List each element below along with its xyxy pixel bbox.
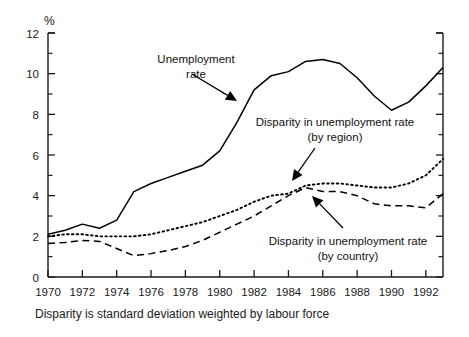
y-tick-label: 0 bbox=[33, 272, 39, 284]
x-tick-label: 1982 bbox=[241, 286, 267, 298]
x-tick-label: 1992 bbox=[413, 286, 439, 298]
chart-figure: 0246810121970197219741976197819801982198… bbox=[0, 0, 469, 337]
annotation-text-line: (by country) bbox=[318, 250, 379, 262]
x-tick-label: 1972 bbox=[70, 286, 96, 298]
x-tick-label: 1990 bbox=[379, 286, 405, 298]
x-tick-label: 1980 bbox=[207, 286, 233, 298]
y-tick-label: 4 bbox=[33, 190, 40, 202]
annotation-text-line: Disparity in unemployment rate bbox=[256, 116, 415, 128]
y-tick-label: 12 bbox=[26, 28, 39, 40]
y-tick-label: 10 bbox=[26, 68, 39, 80]
y-tick-label: 2 bbox=[33, 231, 39, 243]
x-tick-label: 1974 bbox=[104, 286, 130, 298]
annotation-text-line: Unemployment bbox=[157, 53, 235, 65]
y-tick-label: 8 bbox=[33, 109, 39, 121]
line-chart: 0246810121970197219741976197819801982198… bbox=[0, 0, 469, 337]
x-tick-label: 1970 bbox=[35, 286, 61, 298]
y-axis-label: % bbox=[44, 14, 55, 28]
chart-caption: Disparity is standard deviation weighted… bbox=[35, 307, 329, 321]
x-tick-label: 1978 bbox=[173, 286, 199, 298]
x-tick-label: 1988 bbox=[344, 286, 370, 298]
annotation-text-line: (by region) bbox=[308, 131, 363, 143]
annotation-text-line: rate bbox=[186, 68, 206, 80]
annotation-text-line: Disparity in unemployment rate bbox=[269, 235, 428, 247]
x-tick-label: 1984 bbox=[276, 286, 302, 298]
y-tick-label: 6 bbox=[33, 150, 39, 162]
x-tick-label: 1986 bbox=[310, 286, 336, 298]
x-tick-label: 1976 bbox=[138, 286, 164, 298]
